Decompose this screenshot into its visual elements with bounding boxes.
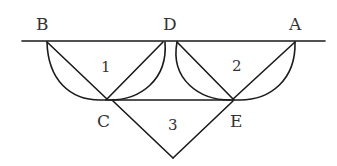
label-E: E (230, 111, 242, 131)
label-D: D (163, 14, 177, 34)
label-C: C (97, 111, 110, 131)
geometry-diagram: B D A C E 1 2 3 (0, 0, 337, 166)
region-label-3: 3 (168, 116, 178, 134)
segment-C-bottom (113, 101, 173, 158)
segment-DE (177, 42, 234, 100)
label-A: A (288, 14, 302, 34)
label-B: B (36, 14, 49, 34)
region-label-1: 1 (101, 58, 111, 76)
arc-D-E (176, 42, 230, 100)
segment-DC (106, 42, 163, 100)
arc-D-C (110, 42, 165, 100)
segment-E-bottom (173, 101, 233, 158)
segment-BC (47, 42, 108, 100)
region-label-2: 2 (232, 57, 242, 75)
